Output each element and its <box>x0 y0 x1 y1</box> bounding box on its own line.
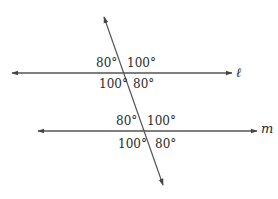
transversal-line <box>104 17 163 185</box>
angle-l-bottom-right: 80° <box>133 78 154 90</box>
angle-m-top-right: 100° <box>147 115 176 127</box>
diagram-canvas <box>0 0 278 199</box>
angle-l-top-left: 80° <box>96 57 117 69</box>
angle-m-bottom-left: 100° <box>118 138 147 150</box>
line-m-label: m <box>261 122 273 135</box>
angle-m-bottom-right: 80° <box>155 138 176 150</box>
line-l-label: ℓ <box>236 66 241 79</box>
angle-l-bottom-left: 100° <box>99 78 128 90</box>
angle-l-top-right: 100° <box>127 57 156 69</box>
angle-m-top-left: 80° <box>116 115 137 127</box>
